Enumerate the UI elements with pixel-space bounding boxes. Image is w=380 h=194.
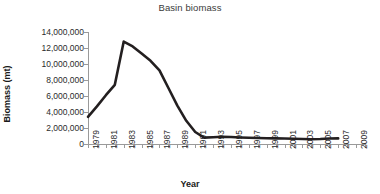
y-axis-tick-mark [84,128,88,129]
y-axis-tick-mark [84,64,88,65]
y-axis-tick-mark [84,48,88,49]
y-axis-tick-mark [84,112,88,113]
x-axis-title: Year [0,179,380,189]
data-series-line [0,0,380,194]
y-axis-tick-mark [84,96,88,97]
y-axis-tick-mark [84,80,88,81]
y-axis-tick-mark [84,144,88,145]
y-axis-tick-mark [84,32,88,33]
chart-container: Basin biomass Biomass (mt) 02,000,0004,0… [0,0,380,194]
